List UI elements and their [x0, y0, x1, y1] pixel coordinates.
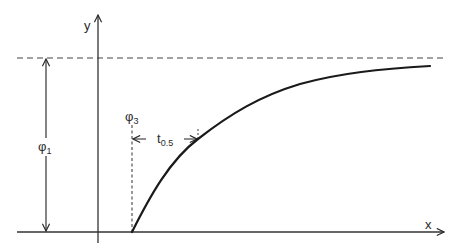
growth-curve-diagram: y x φ1 φ3 t0.5 — [0, 0, 458, 252]
y-axis-label: y — [84, 18, 91, 33]
growth-curve-line — [132, 66, 430, 232]
half-time-label: t0.5 — [157, 131, 173, 148]
plateau-label: φ1 — [38, 139, 51, 156]
lag-label: φ3 — [125, 109, 138, 126]
x-axis-label: x — [425, 217, 432, 232]
